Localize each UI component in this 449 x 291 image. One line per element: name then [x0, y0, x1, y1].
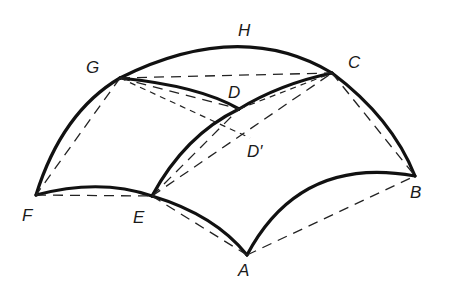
vertex-labels: G H C D D′ F E A B: [22, 21, 421, 280]
chord-D-C: [239, 73, 332, 109]
arc-G-H-C: [120, 47, 332, 78]
curved-edges: [36, 47, 415, 255]
label-D-prime: D′: [247, 142, 263, 161]
chord-A-B: [247, 176, 415, 255]
chord-G-C: [120, 73, 332, 78]
curved-surface-diagram: G H C D D′ F E A B: [0, 0, 449, 291]
chord-E-D: [152, 109, 239, 196]
chord-E-A: [152, 196, 247, 255]
label-A: A: [237, 261, 249, 280]
chord-C-B: [332, 73, 415, 176]
chord-G-D: [120, 78, 239, 109]
label-C: C: [348, 53, 361, 72]
label-F: F: [22, 206, 34, 225]
label-H: H: [238, 21, 251, 40]
chord-F-E: [36, 195, 152, 196]
chord-G-F: [36, 78, 120, 195]
arc-A-B: [247, 172, 415, 255]
label-E: E: [133, 208, 145, 227]
label-G: G: [86, 58, 99, 77]
label-B: B: [410, 183, 421, 202]
label-D: D: [228, 83, 240, 102]
